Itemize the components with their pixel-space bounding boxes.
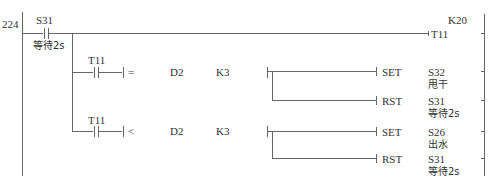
branch2-compare-operand2: K3 xyxy=(216,125,229,137)
branch1-output1-comment: 甩干 xyxy=(428,79,448,91)
rung-number: 224 xyxy=(2,18,19,30)
branch2-output1-instruction[interactable]: SET xyxy=(382,126,402,138)
timer-output-device[interactable]: T11 xyxy=(431,28,448,40)
branch2-output1-device: S26 xyxy=(428,126,445,138)
branch1-output1-device: S32 xyxy=(428,66,445,78)
branch1-contact-device[interactable]: T11 xyxy=(88,54,105,66)
branch2-output1-comment: 出水 xyxy=(428,139,448,151)
branch2-contact-device[interactable]: T11 xyxy=(88,114,105,126)
branch1-output1-instruction[interactable]: SET xyxy=(382,66,402,78)
branch1-output2-comment: 等待2s xyxy=(428,108,460,120)
branch2-output2-comment: 等待2s xyxy=(428,166,460,178)
branch1-output2-instruction[interactable]: RST xyxy=(382,95,402,107)
branch2-output2-device: S31 xyxy=(428,153,445,165)
branch2-compare-operand1: D2 xyxy=(170,125,183,137)
ladder-diagram-lines xyxy=(0,0,496,186)
main-contact-comment: 等待2s xyxy=(33,40,65,52)
branch1-compare-operand2: K3 xyxy=(216,66,229,78)
branch1-output2-device: S31 xyxy=(428,95,445,107)
branch1-compare-operand1: D2 xyxy=(170,66,183,78)
timer-setting: K20 xyxy=(448,14,467,26)
branch1-compare-operator: = xyxy=(128,66,134,78)
branch2-output2-instruction[interactable]: RST xyxy=(382,153,402,165)
branch2-compare-operator: < xyxy=(128,125,134,137)
main-contact-device[interactable]: S31 xyxy=(36,14,53,26)
